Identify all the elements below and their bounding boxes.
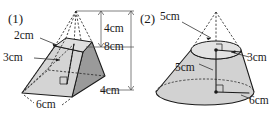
- figure-1-label-upper-height: 4cm: [104, 22, 124, 34]
- figure-1-label-top-edge: 2cm: [14, 29, 34, 41]
- figure-2-label-top-radius: 3cm: [247, 51, 267, 63]
- figure-1-label-total-height: 8cm: [104, 40, 124, 52]
- figure-2-cone-frustum: (2): [133, 0, 271, 124]
- figure-sheet: (1): [0, 0, 271, 124]
- figure-2-label-frustum-height: 5cm: [175, 61, 195, 73]
- figure-1-label-base-depth: 4cm: [100, 84, 120, 96]
- figure-1-label-slant: 3cm: [3, 51, 23, 63]
- figure-1-index-label: (1): [8, 11, 23, 26]
- figure-1-label-base-width: 6cm: [36, 98, 56, 110]
- figure-1-square-frustum: (1): [0, 0, 140, 124]
- figure-2-solid-body: [156, 41, 254, 105]
- figure-2-label-upper-height: 5cm: [160, 10, 180, 22]
- figure-2-label-base-radius: 6cm: [249, 94, 269, 106]
- figure-2-index-label: (2): [140, 11, 155, 26]
